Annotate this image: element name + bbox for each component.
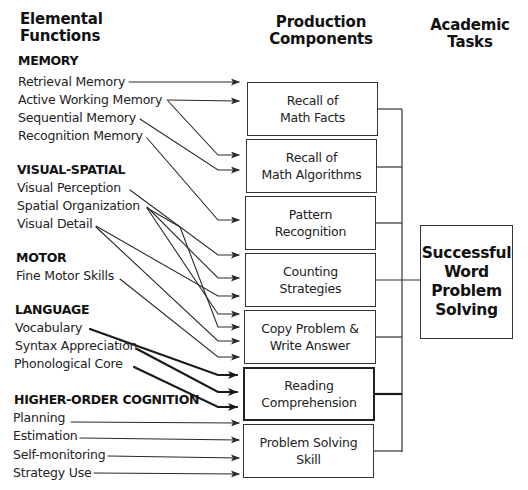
box-reading-comprehension-line2: Comprehension: [261, 394, 357, 411]
section-higher-order-cognition-title: HIGHER-ORDER COGNITION: [14, 392, 199, 407]
header-production-components: Production Components: [262, 14, 380, 48]
item-planning: Planning: [13, 410, 65, 425]
box-reading-comprehension-line1: Reading: [261, 377, 357, 394]
item-recognition-memory: Recognition Memory: [18, 128, 143, 143]
arrow-sequential-to-algorithms: [140, 119, 239, 170]
item-self-monitoring: Self-monitoring: [13, 447, 106, 462]
box-copy-problem-write-answer: Copy Problem &Write Answer: [244, 310, 376, 364]
item-strategy-use: Strategy Use: [13, 465, 91, 480]
box-problem-solving-skill-line1: Problem Solving: [260, 434, 358, 451]
box-recall-math-algorithms: Recall ofMath Algorithms: [246, 139, 377, 193]
box-problem-solving-skill: Problem SolvingSkill: [243, 424, 374, 478]
box-pattern-recognition-line2: Recognition: [275, 223, 346, 240]
item-estimation: Estimation: [13, 428, 78, 443]
box-counting-strategies-line1: Counting: [280, 263, 342, 280]
section-memory-title: MEMORY: [18, 53, 78, 68]
box-pattern-recognition-line1: Pattern: [275, 206, 346, 223]
item-syntax-appreciation: Syntax Appreciation: [15, 338, 137, 353]
arrow-spatial-org-to-copy-2: [147, 208, 239, 327]
box-successful-word-problem-solving: Successful Word Problem Solving: [420, 225, 513, 339]
header-elemental-line1: Elemental: [20, 11, 103, 28]
header-production-line2: Components: [262, 31, 380, 48]
box-recall-math-facts: Recall ofMath Facts: [247, 82, 378, 136]
header-elemental-functions: Elemental Functions: [20, 11, 103, 45]
header-academic-tasks: Academic Tasks: [420, 17, 520, 51]
header-production-line1: Production: [262, 14, 380, 31]
item-visual-detail: Visual Detail: [17, 216, 93, 231]
section-language-title: LANGUAGE: [15, 302, 89, 317]
arrow-estimation-to-problem-solving: [80, 438, 239, 440]
item-phonological-core: Phonological Core: [14, 356, 123, 371]
arrow-recognition-to-pattern: [147, 138, 239, 220]
box-pattern-recognition: PatternRecognition: [245, 196, 376, 250]
box-problem-solving-skill-line2: Skill: [260, 451, 358, 468]
item-retrieval-memory: Retrieval Memory: [18, 74, 125, 89]
box-copy-problem-line2: Write Answer: [261, 337, 359, 354]
item-visual-perception: Visual Perception: [17, 180, 121, 195]
box-recall-math-algorithms-line2: Math Algorithms: [262, 166, 362, 183]
arrow-planning-to-problem-solving: [71, 422, 239, 423]
result-line4: Solving: [422, 301, 512, 320]
result-line3: Problem: [422, 282, 512, 301]
box-recall-math-facts-line2: Math Facts: [280, 109, 345, 126]
box-reading-comprehension: ReadingComprehension: [243, 367, 375, 421]
section-visual-spatial-title: VISUAL-SPATIAL: [17, 162, 125, 177]
arrow-self-monitoring-to-problem-solving: [108, 456, 239, 458]
arrow-syntax-to-reading: [137, 349, 237, 392]
arrow-visual-detail-to-copy: [96, 227, 239, 341]
item-active-working-memory: Active Working Memory: [18, 92, 162, 107]
box-copy-problem-line1: Copy Problem &: [261, 320, 359, 337]
arrow-visual-detail-to-counting: [96, 226, 239, 296]
arrow-active-wm-to-algorithms: [168, 101, 239, 155]
arrow-active-wm-to-math-facts: [167, 100, 239, 101]
header-academic-line1: Academic: [420, 17, 520, 34]
result-line2: Word: [422, 263, 512, 282]
item-vocabulary: Vocabulary: [15, 320, 82, 335]
item-spatial-organization: Spatial Organization: [17, 198, 140, 213]
box-recall-math-facts-line1: Recall of: [280, 92, 345, 109]
section-motor-title: MOTOR: [16, 250, 66, 265]
arrow-spatial-org-to-counting: [147, 207, 239, 278]
box-counting-strategies: CountingStrategies: [245, 253, 376, 307]
box-recall-math-algorithms-line1: Recall of: [262, 149, 362, 166]
box-counting-strategies-line2: Strategies: [280, 280, 342, 297]
arrow-strategy-use-to-problem-solving: [94, 473, 239, 474]
item-fine-motor-skills: Fine Motor Skills: [16, 268, 114, 283]
result-line1: Successful: [422, 244, 512, 263]
header-academic-line2: Tasks: [420, 34, 520, 51]
header-elemental-line2: Functions: [20, 28, 103, 45]
item-sequential-memory: Sequential Memory: [18, 110, 136, 125]
